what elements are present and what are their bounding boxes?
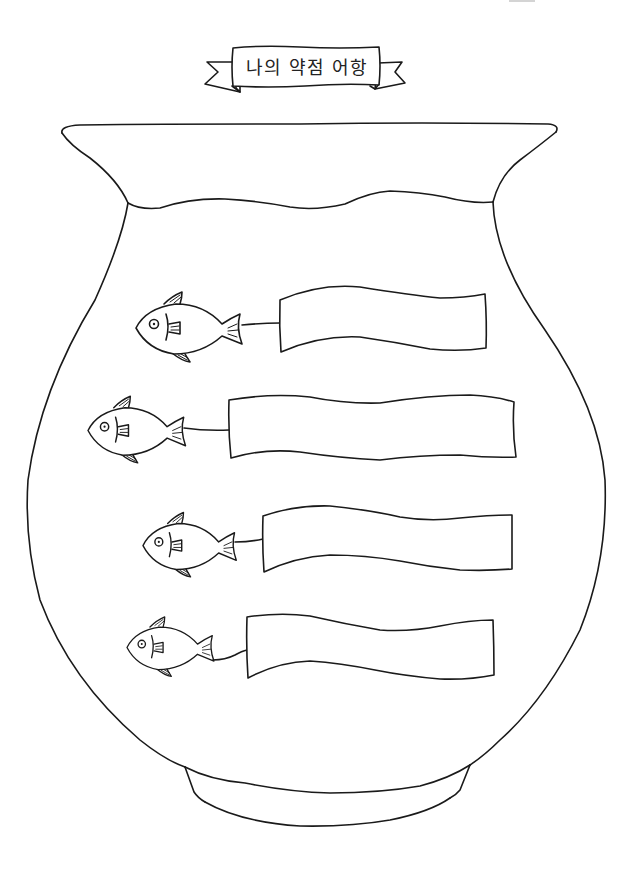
vase-foot-top bbox=[185, 765, 470, 793]
fish-icon bbox=[88, 396, 186, 463]
worksheet-title: 나의 약점 어항 bbox=[232, 50, 382, 86]
fish-icon bbox=[127, 617, 214, 677]
vase-rim-right bbox=[493, 132, 556, 202]
fish-icon bbox=[143, 512, 236, 576]
vase-foot-bottom bbox=[205, 798, 450, 826]
fish-leash bbox=[235, 539, 263, 542]
vase-body-left bbox=[27, 203, 185, 767]
answer-field-1[interactable] bbox=[292, 305, 476, 341]
vase-rim-top bbox=[62, 123, 557, 133]
fish-leash bbox=[184, 428, 229, 430]
fish-leash bbox=[242, 323, 280, 325]
answer-field-2[interactable] bbox=[242, 410, 504, 450]
vase bbox=[27, 123, 605, 826]
fish-icon bbox=[136, 292, 242, 362]
vase-foot-right bbox=[450, 765, 470, 798]
water-line bbox=[128, 191, 493, 208]
answer-field-3[interactable] bbox=[274, 523, 502, 561]
vase-body-right bbox=[470, 202, 605, 765]
fish-leash bbox=[213, 650, 247, 660]
answer-field-4[interactable] bbox=[258, 628, 484, 668]
vase-rim-left bbox=[62, 133, 128, 203]
